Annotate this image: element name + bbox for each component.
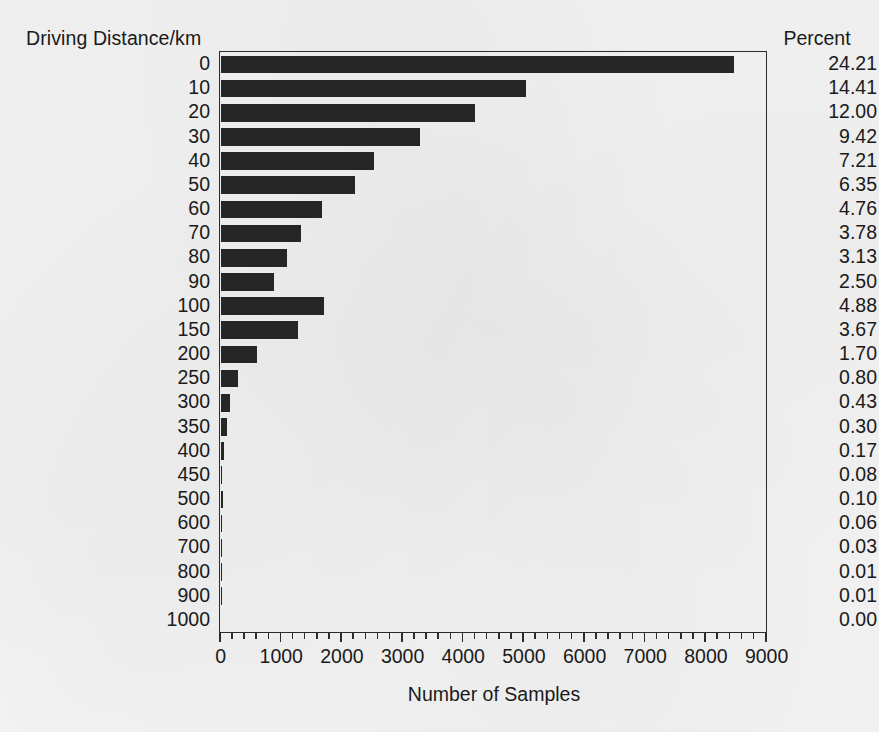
percent-value: 0.17	[769, 438, 877, 463]
x-axis-minor-tick	[716, 633, 718, 639]
y-axis-tick-label: 300	[5, 389, 217, 414]
bar	[221, 321, 299, 339]
x-axis-minor-tick	[498, 633, 500, 639]
percent-value: 1.70	[769, 341, 877, 366]
bar-row	[221, 463, 767, 488]
percent-value: 0.00	[769, 607, 877, 632]
bar-row	[221, 52, 767, 77]
y-axis-tick-label: 60	[5, 196, 217, 221]
x-axis-minor-tick	[510, 633, 512, 639]
percent-row: 4.88	[769, 293, 879, 318]
percent-row: 3.13	[769, 244, 879, 269]
y-axis-tick-label: 1000	[5, 607, 217, 632]
x-axis-major-tick	[644, 633, 646, 642]
x-axis-minor-tick	[304, 633, 306, 639]
x-axis-major-tick	[401, 633, 403, 642]
x-axis-minor-tick	[753, 633, 755, 639]
x-axis-minor-tick	[365, 633, 367, 639]
percent-row: 0.30	[769, 414, 879, 439]
percent-value: 14.41	[769, 75, 877, 100]
percent-value: 0.01	[769, 559, 877, 584]
y-axis-tick-label: 30	[5, 124, 217, 149]
x-axis-minor-tick	[607, 633, 609, 639]
x-axis-tick-label: 2000	[320, 645, 363, 668]
percent-row: 0.01	[769, 583, 879, 608]
bar-row	[221, 270, 767, 295]
category-label: 0	[7, 51, 217, 76]
percent-value: 4.88	[769, 293, 877, 318]
bar-row	[221, 197, 767, 222]
bar-row	[221, 318, 767, 343]
y-axis-tick-label: 400	[5, 438, 217, 463]
bar	[221, 418, 227, 436]
percent-value: 2.50	[769, 269, 877, 294]
bar	[221, 128, 421, 146]
bar-row	[221, 608, 767, 633]
percent-value: 0.10	[769, 486, 877, 511]
x-axis-tick-label: 7000	[624, 645, 667, 668]
y-axis-tick-label: 50	[5, 172, 217, 197]
y-axis-tick-label: 80	[5, 244, 217, 269]
bar-row	[221, 390, 767, 415]
category-label: 800	[7, 559, 217, 584]
category-label: 70	[7, 220, 217, 245]
percent-row: 6.35	[769, 172, 879, 197]
percent-value: 0.08	[769, 462, 877, 487]
x-axis-minor-tick	[425, 633, 427, 639]
percent-value: 0.01	[769, 583, 877, 608]
x-axis-major-tick	[280, 633, 282, 642]
x-axis-tick-label: 8000	[684, 645, 727, 668]
percent-value: 0.80	[769, 365, 877, 390]
percent-row: 12.00	[769, 99, 879, 124]
bar-row	[221, 125, 767, 150]
percent-row: 1.70	[769, 341, 879, 366]
percent-value: 24.21	[769, 51, 877, 76]
y-axis-tick-label: 800	[5, 559, 217, 584]
x-axis-minor-tick	[389, 633, 391, 639]
bar-row	[221, 342, 767, 367]
x-axis-major-tick	[765, 633, 767, 642]
percent-value: 3.78	[769, 220, 877, 245]
y-axis-tick-label: 500	[5, 486, 217, 511]
x-axis-minor-tick	[656, 633, 658, 639]
bar	[221, 539, 222, 557]
y-axis-tick-label: 450	[5, 462, 217, 487]
percent-row: 2.50	[769, 269, 879, 294]
x-axis-major-tick	[583, 633, 585, 642]
y-axis-tick-label: 200	[5, 341, 217, 366]
bar	[221, 515, 222, 533]
y-axis-tick-labels: 0102030405060708090100150200250300350400…	[5, 51, 217, 633]
percent-row: 0.01	[769, 559, 879, 584]
bar-chart-figure: Driving Distance/km Percent 010203040506…	[0, 0, 879, 732]
bar-row	[221, 487, 767, 512]
category-label: 450	[7, 462, 217, 487]
category-label: 100	[7, 293, 217, 318]
x-axis-minor-tick	[474, 633, 476, 639]
bar	[221, 152, 374, 170]
x-axis-tick-label: 0	[215, 645, 226, 668]
bar	[221, 394, 230, 412]
bar	[221, 80, 527, 98]
percent-value-column: 24.2114.4112.009.427.216.354.763.783.132…	[769, 51, 879, 633]
x-axis-minor-tick	[328, 633, 330, 639]
x-axis-minor-tick	[595, 633, 597, 639]
bar-row	[221, 366, 767, 391]
percent-row: 0.80	[769, 365, 879, 390]
category-label: 200	[7, 341, 217, 366]
x-axis-tick-label: 3000	[381, 645, 424, 668]
category-label: 40	[7, 148, 217, 173]
bar	[221, 249, 287, 267]
category-label: 10	[7, 75, 217, 100]
x-axis-minor-tick	[413, 633, 415, 639]
y-axis-tick-label: 40	[5, 148, 217, 173]
y-axis-tick-label: 100	[5, 293, 217, 318]
category-label: 700	[7, 534, 217, 559]
percent-row: 0.17	[769, 438, 879, 463]
category-label: 20	[7, 99, 217, 124]
category-label: 400	[7, 438, 217, 463]
percent-row: 0.08	[769, 462, 879, 487]
bar	[221, 56, 735, 74]
x-axis-major-tick	[462, 633, 464, 642]
bar-row	[221, 76, 767, 101]
x-axis-major-tick	[704, 633, 706, 642]
